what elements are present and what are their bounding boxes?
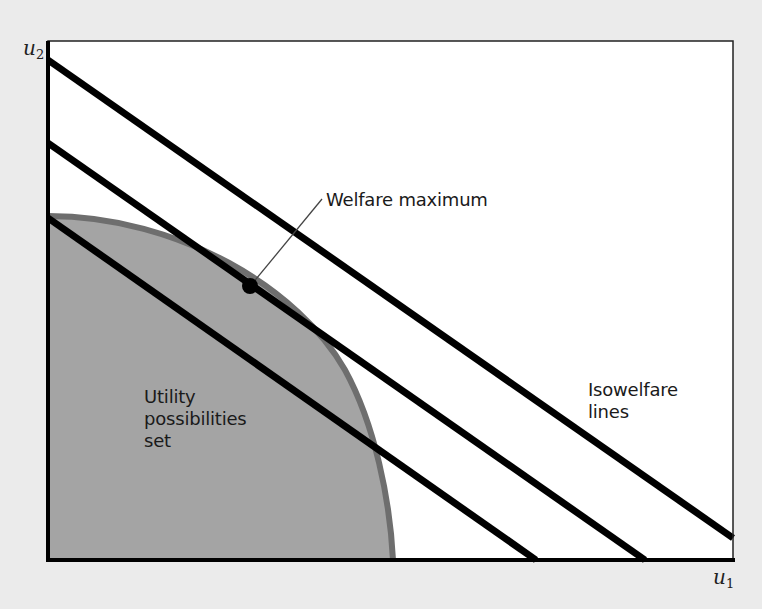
welfare-diagram [0, 0, 762, 609]
utility-possibilities-set-label: Utility possibilities set [144, 386, 247, 452]
welfare-max-point [242, 278, 258, 294]
welfare-maximum-label: Welfare maximum [326, 189, 488, 211]
isowelfare-lines-label: Isowelfare lines [588, 379, 678, 423]
y-axis-label: u2 [23, 36, 44, 62]
x-axis-label: u1 [713, 565, 734, 591]
